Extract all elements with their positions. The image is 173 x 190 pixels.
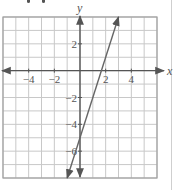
svg-text:2: 2 xyxy=(72,38,78,50)
svg-text:−2: −2 xyxy=(65,92,77,104)
svg-text:−4: −4 xyxy=(65,118,77,130)
y-axis-label: y xyxy=(76,1,83,15)
svg-text:2: 2 xyxy=(103,73,109,85)
coordinate-graph: −4−2242−2−4−6 x y xyxy=(0,0,173,190)
x-axis-label: x xyxy=(166,64,173,78)
svg-text:−4: −4 xyxy=(23,73,35,85)
svg-text:4: 4 xyxy=(129,73,135,85)
axes xyxy=(2,16,164,177)
svg-text:−2: −2 xyxy=(48,73,60,85)
